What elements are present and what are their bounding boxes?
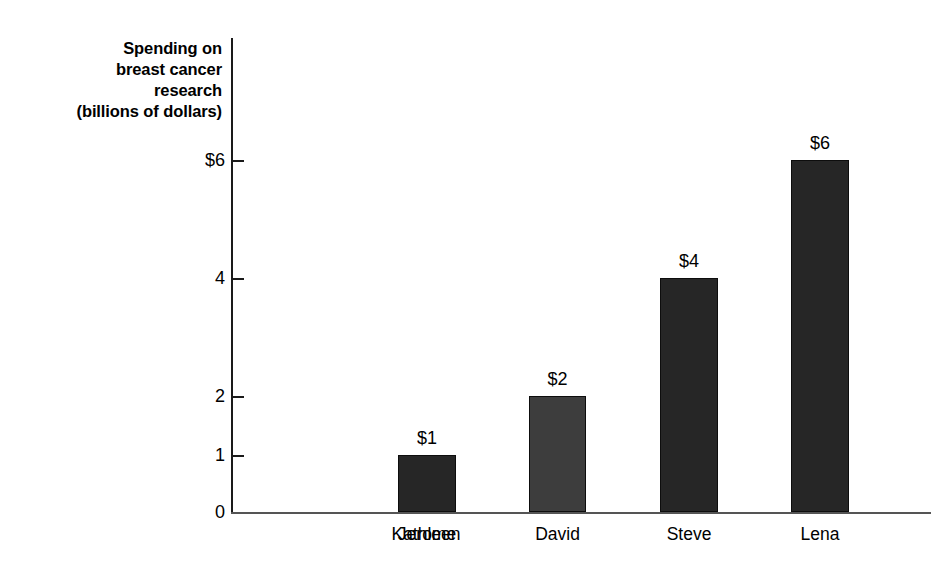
y-axis-title-line-2: breast cancer [30, 59, 222, 80]
y-axis-title-line-3: research [30, 80, 222, 101]
y-tick-label: 2 [165, 387, 225, 405]
x-axis-category-label: Lena [801, 524, 840, 544]
y-tick-label: 4 [165, 269, 225, 287]
y-tick-label: 1 [165, 446, 225, 464]
y-axis-title-line-4: (billions of dollars) [30, 101, 222, 122]
x-axis-category-label: David [535, 524, 580, 544]
bar-rect [791, 160, 849, 512]
bar-rect [660, 278, 718, 512]
bar-steve: $4Steve [660, 38, 718, 512]
bar-chart: Spending on breast cancer research (bill… [0, 0, 939, 564]
bar-value-label: $6 [810, 134, 830, 152]
bar-rect [529, 396, 586, 512]
bar-value-label: $2 [547, 370, 567, 388]
bar-value-label: $4 [679, 252, 699, 270]
x-axis-category-label: Jerome [398, 524, 456, 544]
bar-value-label: $1 [417, 429, 437, 447]
y-tick-label: 0 [165, 503, 225, 521]
bar-jerome: $1Jerome [398, 38, 456, 512]
bar-lena: $6Lena [791, 38, 849, 512]
bar-david: $2David [529, 38, 586, 512]
y-tick-label: $6 [165, 151, 225, 169]
y-axis-title: Spending on breast cancer research (bill… [30, 38, 222, 122]
y-axis-title-line-1: Spending on [30, 38, 222, 59]
plot-area: $0Kathleen$1Jerome$2David$4Steve$6Lena [231, 38, 931, 512]
x-axis-category-label: Steve [667, 524, 712, 544]
x-axis-line [231, 512, 931, 514]
bar-rect [398, 455, 456, 512]
